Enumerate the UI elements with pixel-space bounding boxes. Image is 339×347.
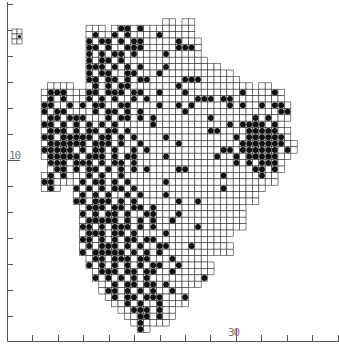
x-axis-label-30: 30 (228, 326, 239, 339)
inset-key (12, 29, 22, 44)
tetrad-grid (41, 19, 297, 333)
distribution-map: 10 30 (0, 0, 339, 347)
map-canvas (0, 0, 339, 347)
y-axis-label-10: 10 (9, 149, 20, 162)
